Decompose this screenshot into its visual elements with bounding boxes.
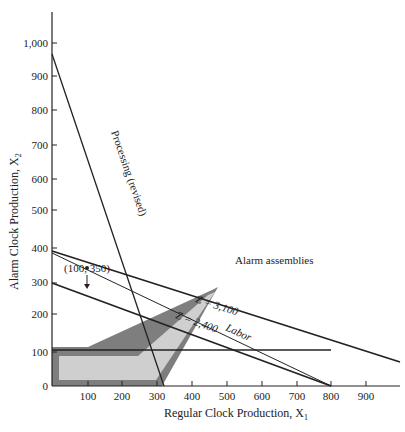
- linear-programming-chart: 0 100 200 300 400 500 600 700 800 900 1,…: [0, 0, 405, 432]
- y-tick-0: 0: [43, 380, 49, 392]
- y-tick-800: 800: [32, 104, 49, 116]
- x-tick-700: 700: [289, 390, 306, 402]
- y-axis-label: Alarm Clock Production, X2: [7, 153, 23, 290]
- processing-label: Processing (revised): [108, 129, 150, 218]
- alarm-assemblies-label: Alarm assemblies: [235, 254, 314, 266]
- labor-label: Labor: [223, 321, 254, 344]
- chart-svg: 0 100 200 300 400 500 600 700 800 900 1,…: [0, 0, 405, 432]
- y-tick-1000: 1,000: [23, 37, 48, 49]
- x-tick-600: 600: [254, 390, 271, 402]
- point-arrowhead-icon: [84, 284, 90, 289]
- y-tick-700: 700: [32, 139, 49, 151]
- y-tick-500: 500: [32, 204, 49, 216]
- y-tick-200: 200: [32, 308, 49, 320]
- y-tick-300: 300: [32, 276, 49, 288]
- y-tick-600: 600: [32, 173, 49, 185]
- x-tick-100: 100: [80, 390, 97, 402]
- x-tick-400: 400: [184, 390, 201, 402]
- point-label: (100, 350): [64, 262, 110, 275]
- y-ticks: [52, 43, 57, 352]
- y-tick-400: 400: [32, 242, 49, 254]
- x-tick-800: 800: [323, 390, 340, 402]
- x-tick-500: 500: [219, 390, 236, 402]
- x-axis-label: Regular Clock Production, X1: [164, 406, 308, 422]
- x-tick-300: 300: [149, 390, 166, 402]
- x-tick-200: 200: [114, 390, 131, 402]
- y-tick-labels: 0 100 200 300 400 500 600 700 800 900 1,…: [23, 37, 48, 392]
- processing-revised-line: [52, 54, 164, 386]
- y-tick-100: 100: [32, 346, 49, 358]
- x-tick-labels: 100 200 300 400 500 600 700 800 900: [80, 390, 375, 402]
- x-tick-900: 900: [358, 390, 375, 402]
- y-tick-900: 900: [32, 70, 49, 82]
